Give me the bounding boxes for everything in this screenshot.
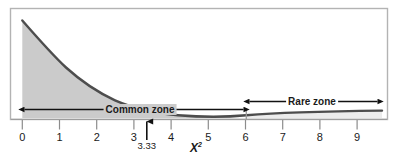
x-tick-label-3: 3: [131, 131, 137, 143]
x-axis-title: X2: [190, 141, 202, 155]
x-tick-label-4: 4: [168, 131, 174, 143]
x-tick-label-0: 0: [19, 131, 25, 143]
x-axis-title-exponent: 2: [198, 141, 202, 148]
chi-square-distribution-figure: 0 1 2 3 4 5 6 7 8 9 Common zone Rare zon…: [0, 0, 399, 162]
x-tick-label-6: 6: [242, 131, 248, 143]
x-axis-ticks: [22, 120, 357, 130]
x-tick-label-1: 1: [56, 131, 62, 143]
rare-zone-label: Rare zone: [286, 96, 338, 107]
common-zone-label: Common zone: [104, 104, 177, 115]
x-axis-title-base: X: [190, 141, 198, 155]
x-tick-label-8: 8: [317, 131, 323, 143]
x-tick-label-2: 2: [94, 131, 100, 143]
x-tick-label-9: 9: [354, 131, 360, 143]
x-tick-label-5: 5: [205, 131, 211, 143]
x-tick-label-7: 7: [280, 131, 286, 143]
critical-value-label: 3.33: [138, 140, 157, 151]
